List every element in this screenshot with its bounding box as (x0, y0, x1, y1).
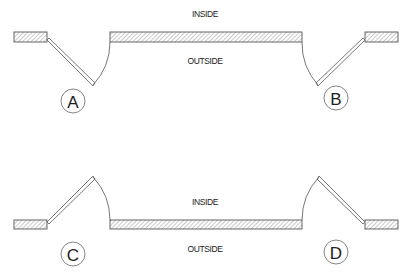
top-plan: INSIDE OUTSIDE A B (14, 9, 398, 113)
top-left-wall (14, 32, 47, 42)
top-inside-label: INSIDE (192, 9, 219, 19)
callout-d: D (324, 240, 348, 264)
door-c-swing-arc (93, 177, 110, 220)
door-a (47, 38, 110, 86)
top-right-wall (365, 32, 398, 42)
bottom-plan: INSIDE OUTSIDE C D (14, 176, 398, 266)
callout-c-letter: C (67, 246, 79, 265)
door-b-leaf (316, 38, 365, 86)
door-d (302, 176, 365, 224)
callout-b: B (324, 86, 348, 110)
door-b (302, 38, 365, 86)
callout-c: C (61, 242, 85, 266)
top-center-wall (110, 32, 302, 42)
door-d-leaf (317, 176, 365, 224)
bottom-inside-label: INSIDE (192, 197, 219, 207)
door-c-leaf (47, 176, 95, 224)
door-a-leaf (47, 38, 95, 86)
callout-b-letter: B (330, 90, 341, 109)
bottom-center-wall (110, 220, 302, 229)
bottom-outside-label: OUTSIDE (188, 244, 224, 254)
callout-a-letter: A (67, 93, 79, 112)
door-c (47, 176, 110, 224)
bottom-right-wall (365, 220, 398, 229)
door-b-swing-arc (302, 42, 318, 85)
bottom-left-wall (14, 220, 47, 229)
door-a-swing-arc (93, 42, 110, 85)
top-outside-label: OUTSIDE (188, 56, 224, 66)
callout-d-letter: D (330, 244, 342, 263)
door-d-swing-arc (302, 177, 319, 220)
door-swing-diagram: INSIDE OUTSIDE A B INSIDE (0, 0, 409, 275)
callout-a: A (61, 89, 85, 113)
